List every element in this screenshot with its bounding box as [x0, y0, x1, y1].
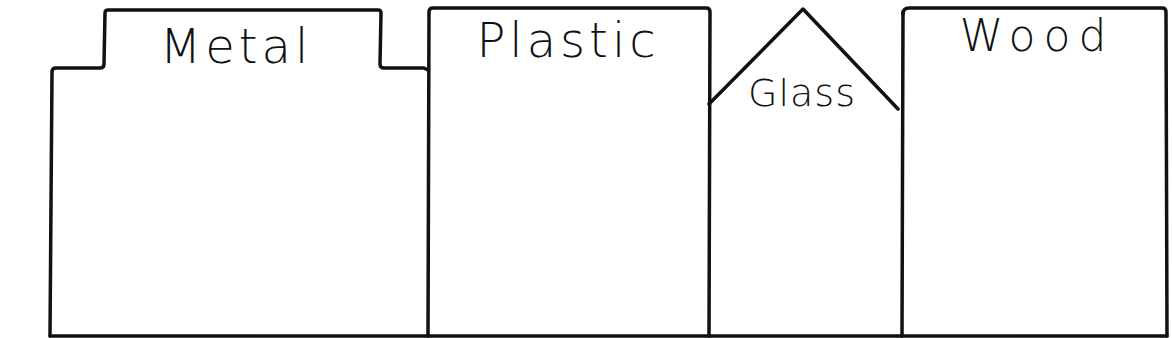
metal-label: Metal [160, 22, 313, 70]
wood-label: Wood [960, 14, 1115, 58]
glass-label: Glass [748, 74, 856, 112]
glass-bin-area[interactable] [710, 105, 902, 336]
plastic-label: Plastic [476, 16, 659, 64]
sorting-mat-diagram: Metal Plastic Glass Wood [0, 0, 1172, 338]
glass-bin-right-wall [902, 12, 903, 336]
metal-bin-area[interactable] [52, 70, 428, 336]
